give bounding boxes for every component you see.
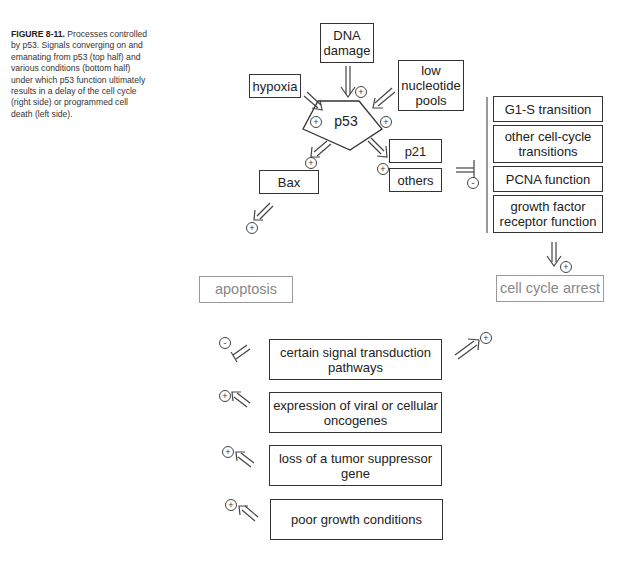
target-growth-factor: growth factor receptor function: [493, 195, 603, 233]
minus-sign-icon: -: [219, 337, 231, 349]
plus-sign-icon: +: [380, 116, 392, 128]
apoptosis-box: apoptosis: [199, 276, 293, 303]
plus-sign-icon: +: [310, 116, 322, 128]
condition-poor-growth: poor growth conditions: [270, 499, 443, 540]
plus-sign-icon: +: [560, 261, 572, 273]
target-other-transitions: other cell-cycle transitions: [493, 125, 603, 163]
condition-tumor-suppressor: loss of a tumor suppressor gene: [269, 445, 442, 486]
condition-oncogenes: expression of viral or cellular oncogene…: [269, 392, 442, 433]
plus-sign-icon: +: [225, 499, 237, 511]
condition-signal-transduction: certain signal transduction pathways: [269, 339, 442, 380]
target-g1s: G1-S transition: [493, 96, 603, 122]
plus-sign-icon: +: [480, 332, 492, 344]
bax-box: Bax: [259, 170, 319, 194]
plus-sign-icon: +: [355, 86, 367, 98]
p21-box: p21: [389, 139, 442, 163]
dna-damage-box: DNA damage: [320, 23, 374, 63]
plus-sign-icon: +: [222, 446, 234, 458]
hypoxia-box: hypoxia: [249, 74, 301, 98]
target-pcna: PCNA function: [493, 166, 603, 192]
low-nucleotide-box: low nucleotide pools: [398, 60, 464, 111]
minus-sign-icon: -: [467, 177, 479, 189]
plus-sign-icon: +: [219, 390, 231, 402]
plus-sign-icon: +: [377, 163, 389, 175]
p53-label: p53: [316, 113, 376, 129]
plus-sign-icon: +: [305, 157, 317, 169]
cell-cycle-arrest-box: cell cycle arrest: [496, 275, 604, 302]
others-box: others: [389, 168, 442, 192]
plus-sign-icon: +: [246, 222, 258, 234]
